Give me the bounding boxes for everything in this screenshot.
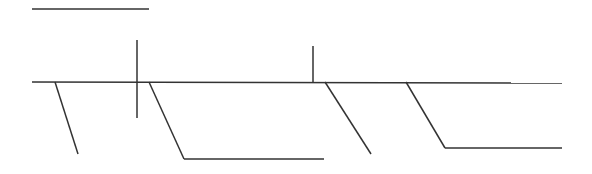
diagram-segments (32, 9, 562, 159)
branch-2-diagonal (149, 82, 184, 159)
branch-4-diagonal (406, 82, 445, 148)
line-diagram (0, 0, 592, 174)
branch-3-diagonal (325, 82, 371, 154)
diagram-svg (0, 0, 592, 174)
branch-1-diagonal (55, 82, 78, 154)
main-horizontal-line (32, 82, 562, 83)
